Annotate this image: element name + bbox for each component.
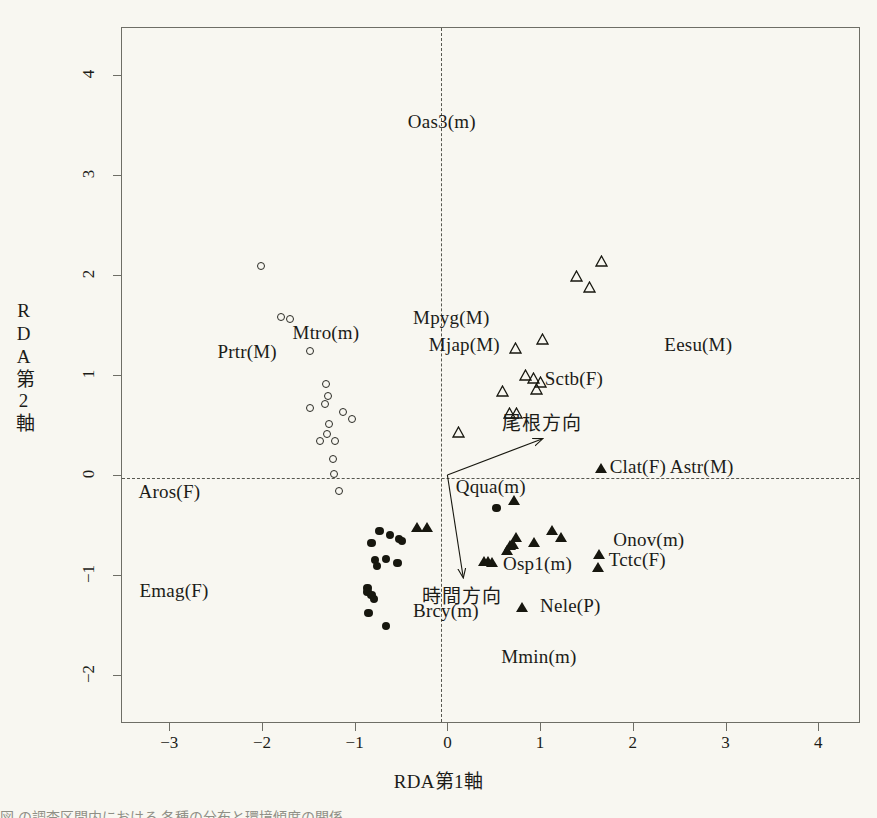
data-point-open-triangle <box>536 333 549 345</box>
y-tick-label: 1 <box>79 357 99 391</box>
data-point-open-circle <box>322 380 330 388</box>
data-point-open-triangle <box>583 281 596 293</box>
species-label: Osp1(m) <box>503 553 572 575</box>
species-label: Mjap(M) <box>429 334 500 356</box>
species-label: Nele(P) <box>540 595 601 617</box>
species-label: Oas3(m) <box>408 111 476 133</box>
species-label: Emag(F) <box>140 580 209 602</box>
y-tick <box>113 475 121 476</box>
x-tick <box>726 723 727 731</box>
data-point-open-circle <box>257 262 265 270</box>
species-label: Aros(F) <box>139 481 201 503</box>
data-point-filled-circle <box>364 609 373 618</box>
data-point-open-triangle <box>595 255 608 267</box>
y-tick <box>113 575 121 576</box>
data-point-open-circle <box>348 415 356 423</box>
y-tick-label: −2 <box>79 657 99 691</box>
species-label: Tctc(F) <box>609 549 666 571</box>
data-point-open-triangle <box>452 426 465 438</box>
data-point-open-circle <box>339 408 347 416</box>
x-tick-label: 4 <box>798 733 838 753</box>
data-point-open-circle <box>323 430 331 438</box>
plot-frame <box>121 27 860 723</box>
rda-ordination-chart: −3−2−101234−2−101234 Oas3(m)Prtr(M)Mtro(… <box>0 0 877 818</box>
y-tick <box>113 675 121 676</box>
species-label: Prtr(M) <box>217 341 276 363</box>
species-label: Clat(F) Astr(M) <box>610 456 734 478</box>
x-tick <box>169 723 170 731</box>
x-tick-label: −2 <box>242 733 282 753</box>
data-point-open-triangle <box>530 383 543 395</box>
x-tick-label: 1 <box>520 733 560 753</box>
data-point-open-circle <box>325 420 333 428</box>
data-point-filled-triangle <box>593 549 605 559</box>
data-point-filled-triangle <box>421 522 433 532</box>
y-tick <box>113 175 121 176</box>
data-point-open-circle <box>335 487 343 495</box>
x-tick <box>262 723 263 731</box>
species-label: Onov(m) <box>613 529 684 551</box>
data-point-filled-triangle <box>486 557 498 567</box>
x-tick <box>818 723 819 731</box>
data-point-filled-circle <box>367 539 376 548</box>
species-label: Mpyg(M) <box>413 307 489 329</box>
data-point-open-triangle <box>570 270 583 282</box>
y-tick <box>113 75 121 76</box>
x-axis-title: RDA第1軸 <box>0 766 877 793</box>
species-label: Mtro(m) <box>293 322 360 344</box>
y-tick <box>113 275 121 276</box>
x-tick-label: −3 <box>149 733 189 753</box>
species-label: Qqua(m) <box>456 476 526 498</box>
x-tick <box>355 723 356 731</box>
data-point-filled-triangle <box>595 463 607 473</box>
data-point-filled-triangle <box>528 537 540 547</box>
y-tick-label: 3 <box>79 157 99 191</box>
x-tick-label: −1 <box>335 733 375 753</box>
x-tick <box>447 723 448 731</box>
data-point-filled-triangle <box>555 532 567 542</box>
vector-label-time-direction: 時間方向 <box>422 581 502 608</box>
y-tick-label: 4 <box>79 57 99 91</box>
figure-caption-fragment: 図 の調査区間内における 各種の分布と環境傾度の関係 <box>0 806 877 818</box>
vector-label-ridge-direction: 尾根方向 <box>502 408 582 435</box>
data-point-open-circle <box>324 392 332 400</box>
x-tick <box>633 723 634 731</box>
data-point-filled-circle <box>492 504 501 513</box>
data-point-open-triangle <box>496 385 509 397</box>
data-point-filled-circle <box>375 527 384 536</box>
y-tick <box>113 375 121 376</box>
species-label: Sctb(F) <box>545 368 603 390</box>
species-label: Mmin(m) <box>501 646 576 668</box>
species-label: Eesu(M) <box>664 334 732 356</box>
data-point-open-circle <box>321 400 329 408</box>
y-tick-label: −1 <box>79 557 99 591</box>
x-tick-label: 3 <box>706 733 746 753</box>
x-tick-label: 0 <box>427 733 467 753</box>
data-point-open-triangle <box>509 342 522 354</box>
x-tick-label: 2 <box>613 733 653 753</box>
y-tick-label: 0 <box>79 457 99 491</box>
x-tick <box>540 723 541 731</box>
y-tick-label: 2 <box>79 257 99 291</box>
data-point-filled-triangle <box>592 562 604 572</box>
y-axis-title: RDA第2軸 <box>8 300 34 434</box>
data-point-filled-triangle <box>516 602 528 612</box>
data-point-filled-circle <box>393 559 402 568</box>
